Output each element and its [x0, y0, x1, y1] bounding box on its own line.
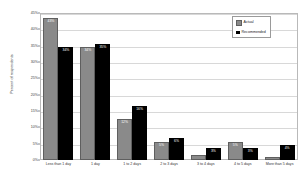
legend-label: Actual	[244, 21, 254, 25]
bar-recommended[interactable]: 35%	[95, 44, 110, 160]
bar-value-label: 34%	[84, 49, 91, 52]
bar-value-label: 35%	[99, 46, 106, 49]
chart-legend: Actual Recommended	[232, 16, 271, 38]
bar-recommended[interactable]: 6%	[169, 138, 184, 160]
bar-actual[interactable]: 34%	[80, 47, 95, 160]
bar-group: 43%34%	[40, 13, 77, 160]
x-axis-tick-label: More than 5 days	[261, 162, 298, 166]
bar-value-label: 4%	[285, 147, 290, 150]
y-axis-tick-label: 25%	[31, 76, 38, 80]
legend-item-recommended[interactable]: Recommended	[236, 31, 266, 35]
bar-actual[interactable]: 43%	[43, 18, 58, 160]
bar-group: 1%3%	[187, 13, 224, 160]
bar-value-label: 43%	[48, 20, 55, 23]
bar-group: 12%16%	[114, 13, 151, 160]
bar-value-label: 5%	[233, 144, 238, 147]
bar-value-label: 6%	[174, 140, 179, 143]
x-axis-tick-labels: Less than 1 day1 day1 to 2 days2 to 3 da…	[40, 162, 298, 166]
bar-actual[interactable]: 1%	[191, 155, 206, 160]
bar-value-label: 16%	[136, 108, 143, 111]
y-axis-tick-label: 35%	[31, 44, 38, 48]
bar-value-label: 1%	[196, 152, 201, 155]
y-axis-tick-label: 15%	[31, 109, 38, 113]
bar-group: 5%6%	[151, 13, 188, 160]
bar-value-label: 3%	[248, 150, 253, 153]
bar-value-label: 0%	[270, 154, 275, 157]
y-axis-tick-label: 40%	[31, 27, 38, 31]
bar-recommended[interactable]: 16%	[132, 106, 147, 160]
y-axis-tick-labels: 0%5%10%15%20%25%30%35%40%45%	[0, 13, 40, 160]
y-axis-tick-label: 30%	[31, 60, 38, 64]
x-axis-tick-label: 3 to 4 days	[187, 162, 224, 166]
bar-chart: Percent of respondents 0%5%10%15%20%25%3…	[0, 0, 307, 191]
bar-recommended[interactable]: 4%	[280, 145, 295, 160]
legend-swatch-icon	[236, 20, 242, 26]
bar-value-label: 3%	[211, 150, 216, 153]
x-axis-tick-label: Less than 1 day	[40, 162, 77, 166]
y-axis-tick-label: 10%	[31, 125, 38, 129]
bar-actual[interactable]: 12%	[117, 119, 132, 160]
bar-value-label: 12%	[121, 121, 128, 124]
bar-value-label: 34%	[63, 49, 70, 52]
bar-actual[interactable]: 0%	[265, 157, 280, 160]
bar-recommended[interactable]: 3%	[206, 148, 221, 160]
y-axis-tick-label: 20%	[31, 93, 38, 97]
bar-recommended[interactable]: 3%	[243, 148, 258, 160]
x-axis-tick-label: 1 day	[77, 162, 114, 166]
x-axis-tick-label: 2 to 3 days	[151, 162, 188, 166]
bar-group: 34%35%	[77, 13, 114, 160]
x-axis-tick-label: 1 to 2 days	[114, 162, 151, 166]
legend-label: Recommended	[242, 31, 266, 35]
bar-actual[interactable]: 5%	[228, 142, 243, 160]
bar-value-label: 5%	[159, 144, 164, 147]
legend-item-actual[interactable]: Actual	[236, 20, 266, 26]
y-axis-tick-label: 45%	[31, 11, 38, 15]
x-axis-tick-label: 4 to 5 days	[224, 162, 261, 166]
legend-swatch-icon	[236, 31, 240, 35]
bar-actual[interactable]: 5%	[154, 142, 169, 160]
bar-recommended[interactable]: 34%	[58, 47, 73, 160]
